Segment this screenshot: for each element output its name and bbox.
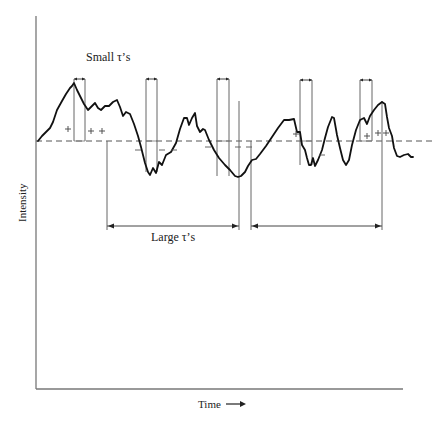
intensity-curve-line [38, 83, 413, 177]
plus-sign-icon [375, 130, 381, 136]
arrowhead-left-icon [108, 224, 114, 229]
intensity-vs-time-diagram: Small τ’s Large τ’s Intensity Time [0, 0, 446, 423]
arrowhead-right-icon [232, 224, 238, 229]
arrowhead-right-icon [375, 224, 381, 229]
large-tau-span [107, 101, 239, 230]
small-tau-bar [360, 78, 372, 141]
plus-sign-icon [99, 128, 105, 134]
x-axis-label: Time [198, 398, 221, 410]
large-tau-label: Large τ’s [151, 230, 196, 244]
plus-sign-icon [364, 133, 370, 139]
x-axis-arrow-icon [226, 401, 246, 407]
plus-sign-icon [88, 128, 94, 134]
small-tau-bar [146, 77, 157, 172]
large-tau-spans [107, 101, 382, 230]
small-tau-bar [217, 77, 229, 176]
y-axis-label: Intensity [16, 183, 28, 222]
small-tau-label: Small τ’s [86, 50, 131, 64]
plus-sign-icon [65, 126, 71, 132]
arrowhead-left-icon [252, 224, 258, 229]
large-tau-span [251, 101, 382, 230]
signal-curve [38, 83, 413, 177]
plus-sign-icon [383, 130, 389, 136]
axes [36, 16, 403, 389]
